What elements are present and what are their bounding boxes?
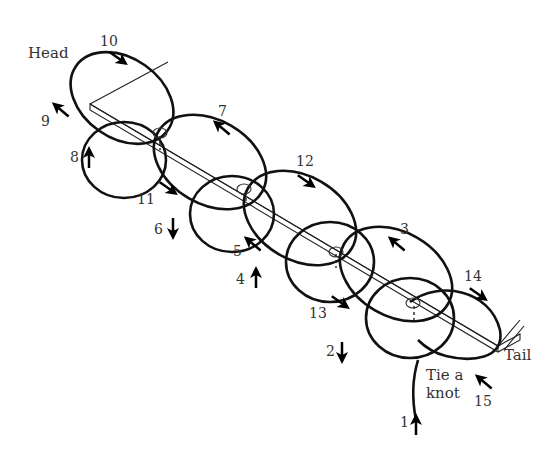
step-number: 15: [474, 393, 492, 409]
step-number: 2: [326, 343, 335, 359]
step-2: 2: [326, 342, 348, 364]
step-number: 8: [70, 149, 79, 165]
arrow-down-icon: [167, 218, 179, 240]
step-9: 9: [41, 98, 73, 129]
lacing-diagram: Head Tail Tie a knot 1234567891011121314…: [0, 0, 548, 460]
arrow-up-icon: [250, 266, 262, 288]
arrow-up-left-icon: [209, 116, 234, 139]
step-1: 1: [400, 413, 422, 435]
step-number: 9: [41, 113, 50, 129]
tie-knot-label-line1: Tie a: [426, 366, 463, 384]
step-number: 14: [464, 268, 482, 284]
board: [90, 62, 524, 352]
step-number: 10: [100, 33, 118, 49]
arrow-down-icon: [336, 342, 348, 364]
tie-knot-label-line2: knot: [426, 384, 460, 402]
arrow-down-right-icon: [106, 47, 131, 69]
cord-loops: [53, 33, 500, 420]
step-4: 4: [236, 266, 262, 288]
step-5: 5: [233, 232, 265, 259]
arrow-up-icon: [410, 413, 422, 435]
step-number: 5: [233, 243, 242, 259]
step-6: 6: [154, 218, 179, 240]
arrow-up-left-icon: [471, 370, 496, 393]
step-number: 3: [400, 221, 409, 237]
step-13: 13: [309, 291, 353, 321]
step-number: 11: [137, 191, 155, 207]
step-number: 4: [236, 271, 245, 287]
arrow-up-left-icon: [48, 98, 73, 121]
step-15: 15: [471, 370, 496, 409]
step-number: 6: [154, 221, 163, 237]
step-number: 1: [400, 414, 409, 430]
head-label: Head: [28, 44, 69, 62]
step-number: 13: [309, 305, 327, 321]
step-number: 7: [218, 103, 227, 119]
tail-label: Tail: [504, 346, 532, 364]
step-number: 12: [296, 153, 314, 169]
